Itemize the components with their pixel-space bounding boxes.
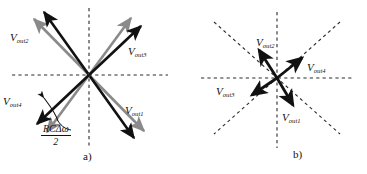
panel-a-label-out4: Vout4 bbox=[3, 92, 22, 109]
panel-a-label-out2-subscript: out2 bbox=[17, 37, 29, 44]
panel-b-label-out3-subscript: out3 bbox=[223, 91, 235, 98]
panel-a-annotation-formula: RCΔω 2 bbox=[41, 124, 71, 147]
panel-b-label-out4-symbol: V bbox=[307, 61, 314, 73]
panel-b-label-out2-symbol: V bbox=[256, 36, 263, 48]
panel-a-label-out1-symbol: V bbox=[125, 104, 132, 116]
panel-b-vector-out2 bbox=[259, 50, 277, 78]
panel-b-label-out3-symbol: V bbox=[216, 85, 223, 97]
panel-a-annotation-denominator: 2 bbox=[41, 136, 71, 147]
panel-b-label-out3: Vout3 bbox=[216, 82, 235, 99]
panel-a-label-out1-subscript: out1 bbox=[132, 110, 144, 117]
panel-a-graphics bbox=[0, 0, 184, 174]
panel-b-label-out1: Vout1 bbox=[282, 108, 301, 125]
panel-b-vector-out1 bbox=[277, 78, 293, 105]
panel-a-caption: a) bbox=[83, 150, 92, 162]
panel-b-vector-out4 bbox=[277, 58, 302, 78]
panel-b-label-out1-subscript: out1 bbox=[289, 117, 301, 124]
panel-a-label-out2-symbol: V bbox=[10, 31, 17, 43]
panel-a-label-out1: Vout1 bbox=[125, 101, 144, 118]
panel-b: Vout2 Vout4 Vout3 Vout1 b) bbox=[183, 0, 367, 174]
panel-a-label-out3: Vout3 bbox=[128, 42, 147, 59]
phasor-diagram-figure: Vout2 Vout3 Vout4 Vout1 RCΔω 2 a) bbox=[0, 0, 367, 174]
panel-b-label-out1-symbol: V bbox=[282, 111, 289, 123]
panel-a-label-out3-symbol: V bbox=[128, 45, 135, 57]
panel-a-annotation-numerator: RCΔω bbox=[41, 124, 71, 136]
panel-a-vector-out3-gray bbox=[89, 18, 131, 75]
panel-b-vector-out3 bbox=[252, 78, 277, 95]
panel-a-label-out4-subscript: out4 bbox=[10, 101, 22, 108]
panel-b-label-out2-subscript: out2 bbox=[263, 42, 275, 49]
panel-a-label-out3-subscript: out3 bbox=[135, 51, 147, 58]
panel-b-label-out2: Vout2 bbox=[256, 33, 275, 50]
panel-b-label-out4: Vout4 bbox=[307, 58, 326, 75]
panel-a: Vout2 Vout3 Vout4 Vout1 RCΔω 2 a) bbox=[0, 0, 184, 174]
panel-b-caption: b) bbox=[293, 148, 302, 160]
panel-a-vector-out2-gray bbox=[34, 19, 89, 75]
panel-a-label-out2: Vout2 bbox=[10, 28, 29, 45]
panel-b-label-out4-subscript: out4 bbox=[314, 67, 326, 74]
panel-a-label-out4-symbol: V bbox=[3, 95, 10, 107]
panel-b-graphics bbox=[183, 0, 367, 174]
panel-a-vector-out2-black bbox=[44, 12, 89, 75]
